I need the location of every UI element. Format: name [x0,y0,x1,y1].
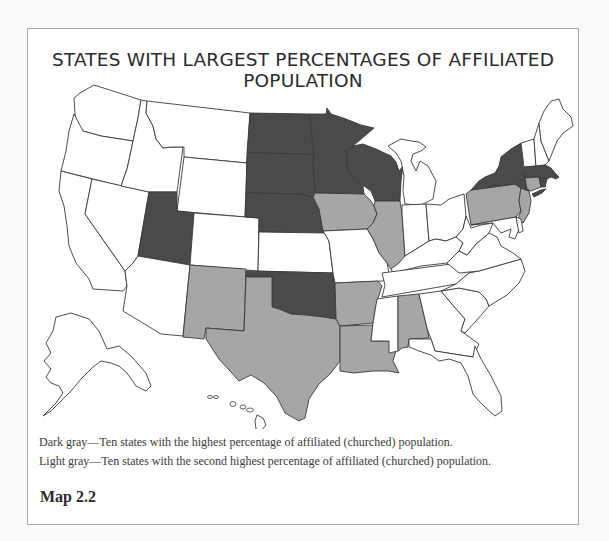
hawaii-island-5 [247,408,254,412]
state-massachusetts [524,165,559,179]
state-kansas [258,232,333,273]
state-connecticut [525,177,541,191]
state-iowa [313,193,377,231]
hawaii-island-1 [208,396,213,399]
state-south-dakota [246,153,315,197]
map-figure: STATES WITH LARGEST PERCENTAGES OF AFFIL… [27,28,579,525]
hawaii-island-3 [230,402,236,407]
map-legend: Dark gray—Ten states with the highest pe… [39,433,569,471]
state-new-york [471,143,529,191]
state-new-jersey [518,188,531,223]
hawaii-island-2 [214,396,219,399]
state-arizona [123,256,190,336]
legend-light-gray: Light gray—Ten states with the second hi… [39,452,569,471]
hawaii-island-4 [240,405,246,409]
us-states-map [28,29,580,429]
state-new-mexico [183,265,246,339]
state-wyoming [177,157,247,217]
legend-dark-gray: Dark gray—Ten states with the highest pe… [39,433,569,452]
map-caption: Map 2.2 [40,488,96,506]
state-colorado [190,213,259,271]
state-north-dakota [247,113,314,154]
state-alaska [43,313,151,416]
hawaii-big-island [255,415,266,429]
state-vermont [521,139,536,167]
